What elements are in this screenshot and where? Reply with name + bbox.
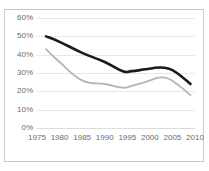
x-axis-tick-label: 2000	[141, 133, 159, 143]
y-axis-tick-label: 60%	[0, 14, 33, 22]
x-axis-tick-label: 1975	[28, 133, 46, 143]
chart-title	[0, 0, 209, 2]
x-axis-tick-label: 1995	[118, 133, 136, 143]
y-axis-tick-label: 0%	[0, 124, 33, 132]
series-line-series-light	[46, 49, 190, 95]
y-axis-tick-label: 30%	[0, 69, 33, 77]
y-axis-tick-label: 20%	[0, 87, 33, 95]
y-axis-tick-label: 10%	[0, 106, 33, 114]
x-axis-tick-label: 1990	[96, 133, 114, 143]
x-axis-tick-label: 2010	[186, 133, 204, 143]
x-axis-labels: 19751980198519901995200020052010	[37, 133, 195, 145]
plot-area	[37, 18, 195, 128]
x-axis-tick-label: 1985	[73, 133, 91, 143]
series-lines	[37, 18, 195, 128]
chart-container: 0%10%20%30%40%50%60% 1975198019851990199…	[0, 0, 209, 171]
x-axis-tick-label: 1980	[51, 133, 69, 143]
x-axis-tick-label: 2005	[164, 133, 182, 143]
gridline	[37, 128, 195, 129]
y-axis-tick-label: 40%	[0, 51, 33, 59]
series-line-series-dark	[46, 36, 190, 84]
y-axis-tick-label: 50%	[0, 32, 33, 40]
